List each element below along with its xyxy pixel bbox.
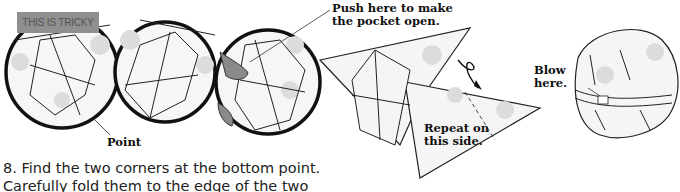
folded-paper — [320, 28, 540, 178]
instruction-text: 8. Find the two corners at the bottom po… — [3, 159, 363, 192]
point-label: Point — [107, 136, 141, 149]
blow-label: Blow here. — [534, 64, 567, 90]
zoom-circle-2 — [115, 20, 215, 122]
finished-balloon — [575, 30, 678, 138]
blow-label-line2: here. — [534, 77, 567, 90]
instruction-line1: 8. Find the two corners at the bottom po… — [3, 159, 363, 177]
push-label-line2: the pocket open. — [332, 15, 453, 28]
repeat-label: Repeat on this side. — [424, 122, 489, 148]
repeat-label-line2: this side. — [424, 135, 489, 148]
zoom-circle-1 — [6, 16, 118, 135]
instruction-line2: Carefully fold them to the edge of the t… — [3, 177, 363, 192]
push-label: Push here to make the pocket open. — [332, 2, 453, 28]
zoom-circle-3 — [216, 10, 330, 134]
tricky-badge: THIS IS TRICKY — [17, 12, 99, 33]
